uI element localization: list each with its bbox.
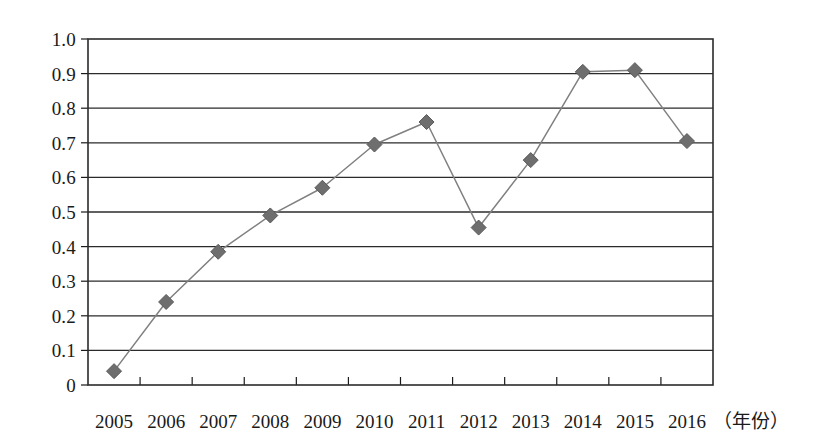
y-axis-tick-label: 0.3 <box>18 272 76 291</box>
data-point-marker <box>263 208 278 223</box>
data-point-marker <box>679 134 694 149</box>
y-axis-tick-label: 0.5 <box>18 203 76 222</box>
y-axis-tick-label: 0.7 <box>18 134 76 153</box>
y-axis-tick-label: 0 <box>18 376 76 395</box>
chart-canvas <box>0 0 827 444</box>
y-axis-tick-label: 0.4 <box>18 238 76 257</box>
data-point-marker <box>419 115 434 130</box>
y-axis-tick-label: 0.2 <box>18 307 76 326</box>
y-axis-tick-label: 0.1 <box>18 341 76 360</box>
y-axis-tick-label: 0.6 <box>18 168 76 187</box>
x-axis-label: （年份） <box>713 412 789 431</box>
series-line <box>114 70 687 371</box>
y-axis-tick-label: 1.0 <box>18 30 76 49</box>
line-chart: 00.10.20.30.40.50.60.70.80.91.0 20052006… <box>0 0 827 444</box>
data-point-marker <box>107 364 122 379</box>
y-axis-tick-label: 0.9 <box>18 65 76 84</box>
data-point-marker <box>627 63 642 78</box>
series-markers <box>107 63 695 379</box>
x-axis-tick-label: 2016 <box>655 412 719 431</box>
data-point-marker <box>575 64 590 79</box>
gridlines <box>88 74 713 351</box>
data-point-marker <box>523 153 538 168</box>
data-point-marker <box>471 220 486 235</box>
y-axis-tick-label: 0.8 <box>18 99 76 118</box>
